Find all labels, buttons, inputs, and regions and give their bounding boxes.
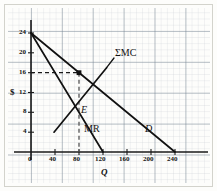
chart-canvas	[0, 0, 217, 191]
price-point-marker	[77, 70, 82, 75]
y-tick-16: 16	[19, 69, 26, 76]
y-axis-title: $	[10, 88, 15, 97]
chart-figure: 24 20 16 12 8 4 0 40 80 120 160 200 240 …	[0, 0, 217, 191]
y-tick-24: 24	[19, 29, 26, 36]
mr-curve-label: MR	[84, 124, 100, 134]
x-axis-title: Q	[101, 168, 108, 177]
x-tick-0: 0	[28, 156, 32, 163]
major-gridlines	[8, 8, 210, 183]
x-tick-160: 160	[119, 156, 130, 163]
demand-curve-label: D	[145, 124, 152, 134]
smc-curve-label: ΣMC	[115, 48, 136, 58]
equilibrium-point-label: E	[81, 105, 87, 115]
x-tick-200: 200	[143, 156, 154, 163]
y-tick-4: 4	[23, 128, 27, 135]
y-tick-20: 20	[19, 49, 26, 56]
x-tick-120: 120	[95, 156, 106, 163]
y-tick-8: 8	[23, 108, 27, 115]
x-tick-40: 40	[49, 156, 56, 163]
x-tick-80: 80	[73, 156, 80, 163]
y-tick-12: 12	[19, 89, 26, 96]
x-tick-240: 240	[167, 156, 178, 163]
